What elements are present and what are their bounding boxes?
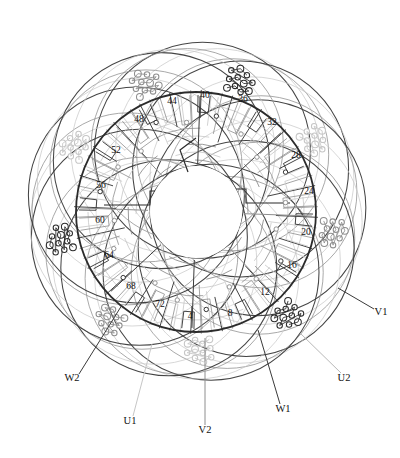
junction-node xyxy=(98,189,102,193)
junction-node xyxy=(153,281,157,285)
junction-node xyxy=(116,165,120,169)
connection-node xyxy=(292,304,297,309)
junction-node xyxy=(283,170,287,174)
connection-node xyxy=(277,323,282,328)
terminal-label-v2: V2 xyxy=(199,424,212,435)
hub-mask xyxy=(150,166,242,258)
slot-number-label: 64 xyxy=(104,250,114,260)
terminal-label-w2: W2 xyxy=(64,372,79,383)
slot-number-label: 44 xyxy=(167,96,177,106)
junction-node xyxy=(214,114,218,118)
connection-node xyxy=(67,135,72,140)
junction-node xyxy=(121,275,125,279)
junction-node xyxy=(239,132,243,136)
slot-number-label: 60 xyxy=(95,215,105,225)
connection-node xyxy=(304,129,309,134)
junction-node xyxy=(139,149,143,153)
junction-node xyxy=(154,120,158,124)
slot-number-label: 56 xyxy=(96,180,106,190)
junction-node xyxy=(255,155,259,159)
junction-node xyxy=(204,307,208,311)
slot-number-label: 40 xyxy=(200,90,210,100)
diagram-canvas: 4812162024283236404448525660646872 V1U2W… xyxy=(0,0,400,458)
junction-node xyxy=(274,227,278,231)
slot-number-label: 68 xyxy=(126,281,136,291)
slot-number-label: 12 xyxy=(260,287,270,297)
slot-number-label: 16 xyxy=(287,260,297,270)
junction-node xyxy=(283,200,287,204)
slot-number-label: 32 xyxy=(267,117,277,127)
connection-node xyxy=(110,307,115,312)
node-link xyxy=(64,227,65,250)
slot-number-label: 36 xyxy=(238,94,248,104)
terminal-label-v1: V1 xyxy=(375,306,388,317)
slot-number-label: 20 xyxy=(301,227,311,237)
junction-node xyxy=(279,259,283,263)
node-link xyxy=(315,136,316,145)
terminal-label-u2: U2 xyxy=(338,372,351,383)
slot-number-label: 8 xyxy=(228,308,233,318)
winding-diagram-svg: 4812162024283236404448525660646872 V1U2W… xyxy=(0,0,400,458)
slot-number-label: 72 xyxy=(155,299,165,309)
junction-node xyxy=(112,218,116,222)
slot-number-label: 48 xyxy=(134,114,144,124)
slot-number-label: 52 xyxy=(111,145,121,155)
slot-number-label: 4 xyxy=(188,311,193,321)
junction-node xyxy=(227,285,231,289)
connection-node xyxy=(321,240,328,247)
junction-node xyxy=(254,277,258,281)
terminal-label-u1: U1 xyxy=(124,415,137,426)
terminal-label-w1: W1 xyxy=(275,403,290,414)
slot-number-label: 24 xyxy=(304,186,314,196)
junction-node xyxy=(184,120,188,124)
junction-node xyxy=(175,298,179,302)
connection-node xyxy=(337,236,342,241)
slot-number-label: 28 xyxy=(291,150,301,160)
